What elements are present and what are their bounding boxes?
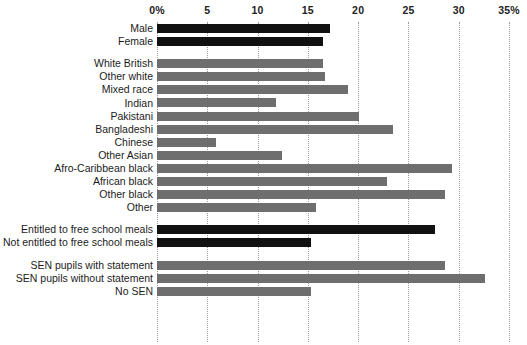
x-axis-tick-label: 15 [302,4,314,16]
bar [157,238,311,247]
bar [157,151,282,160]
bar-category-label: Pakistani [3,111,157,122]
x-axis-tick-label: 5 [204,4,210,16]
x-axis-tick-label: 0% [149,4,165,16]
bar-category-label: Not entitled to free school meals [3,237,157,248]
bar-row: Male [0,22,527,35]
bar-row: Bangladeshi [0,123,527,136]
bar [157,37,323,46]
bar [157,125,393,134]
bar [157,112,359,121]
bar-category-label: Afro-Caribbean black [3,163,157,174]
bar-row: SEN pupils with statement [0,259,527,272]
bar-row: Other [0,201,527,214]
bar-category-label: Other black [3,189,157,200]
bar-category-label: Entitled to free school meals [3,224,157,235]
bar-category-label: Mixed race [3,84,157,95]
bar-row: Mixed race [0,83,527,96]
bar-row: Other black [0,188,527,201]
group-spacer [0,214,527,223]
bar [157,274,485,283]
bar-row: Chinese [0,136,527,149]
bar [157,72,325,81]
bar-category-label: Bangladeshi [3,124,157,135]
bar-row: Other Asian [0,149,527,162]
bar-row: SEN pupils without statement [0,272,527,285]
bar-row: Pakistani [0,110,527,123]
bar-category-label: Chinese [3,137,157,148]
bar-row: Entitled to free school meals [0,223,527,236]
group-spacer [0,48,527,57]
bar-category-label: SEN pupils with statement [3,260,157,271]
bar-rows: MaleFemaleWhite BritishOther whiteMixed … [0,22,527,342]
bar [157,85,348,94]
bar [157,59,323,68]
bar-category-label: White British [3,58,157,69]
bar [157,138,216,147]
bar-row: No SEN [0,285,527,298]
bar [157,203,316,212]
x-axis-tick-label: 10 [252,4,264,16]
bar [157,190,445,199]
bar [157,225,435,234]
bar [157,287,311,296]
bar-row: African black [0,175,527,188]
bar-row: White British [0,57,527,70]
x-axis-tick-label: 30 [453,4,465,16]
bar-category-label: Other [3,202,157,213]
bar [157,164,452,173]
bar-row: Indian [0,96,527,109]
bar [157,24,330,33]
bar-row: Other white [0,70,527,83]
bar-row: Female [0,35,527,48]
group-spacer [0,250,527,259]
x-axis-tick-label: 35% [498,4,520,16]
bar [157,98,276,107]
bar-chart: 0%5101520253035% MaleFemaleWhite British… [0,0,527,345]
bar-category-label: Other white [3,71,157,82]
x-axis-tick-label: 20 [352,4,364,16]
bar-category-label: No SEN [3,286,157,297]
bar-category-label: Indian [3,98,157,109]
bar [157,261,445,270]
bar-category-label: Male [3,23,157,34]
bar [157,177,387,186]
x-axis-tick-label: 25 [402,4,414,16]
bar-category-label: SEN pupils without statement [3,273,157,284]
bar-category-label: Other Asian [3,150,157,161]
bar-category-label: Female [3,36,157,47]
bar-row: Not entitled to free school meals [0,236,527,249]
bar-category-label: African black [3,176,157,187]
bar-row: Afro-Caribbean black [0,162,527,175]
